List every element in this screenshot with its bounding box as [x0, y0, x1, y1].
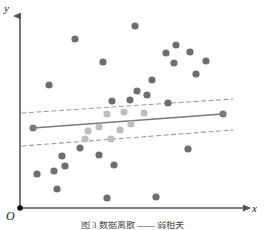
figure-caption: 图 3 数据离散 —— 弱相关: [0, 221, 265, 230]
regression-endpoint-left: [29, 124, 36, 131]
scatter-point: [33, 170, 40, 177]
scatter-point: [172, 41, 179, 48]
scatter-point: [120, 108, 127, 115]
y-axis-label: y: [4, 3, 9, 14]
scatter-points: [33, 22, 209, 201]
scatter-point: [192, 70, 199, 77]
scatter-point: [116, 126, 123, 133]
scatter-point: [148, 76, 155, 83]
scatter-point: [95, 151, 102, 158]
scatter-point: [45, 81, 52, 88]
confidence-band-lines: [22, 99, 233, 146]
scatter-point: [81, 135, 88, 142]
scatter-figure: y x O 图 3 数据离散 —— 弱相关: [0, 0, 265, 230]
scatter-point: [140, 109, 147, 116]
scatter-point: [162, 49, 169, 56]
scatter-point: [107, 135, 114, 142]
scatter-point: [103, 110, 110, 117]
regression-endpoint-right: [219, 110, 226, 117]
scatter-point: [126, 96, 133, 103]
scatter-point: [53, 185, 60, 192]
scatter-point: [71, 35, 78, 42]
scatter-point: [76, 144, 83, 151]
scatter-point: [186, 48, 193, 55]
scatter-point: [108, 97, 115, 104]
scatter-point: [103, 194, 110, 201]
scatter-point: [202, 57, 209, 64]
scatter-point: [84, 127, 91, 134]
axes: [17, 16, 250, 211]
scatter-point: [99, 58, 106, 65]
x-axis-label: x: [252, 203, 257, 214]
regression-line-group: [29, 110, 226, 131]
scatter-point: [127, 120, 134, 127]
scatter-point: [95, 123, 102, 130]
scatter-point: [133, 87, 140, 94]
scatter-point: [131, 22, 138, 29]
origin-dot: [17, 205, 23, 211]
lower-band-line: [22, 130, 233, 146]
scatter-point: [61, 162, 68, 169]
scatter-plot-canvas: [0, 0, 265, 230]
scatter-point: [58, 152, 65, 159]
scatter-point: [164, 99, 171, 106]
scatter-point: [152, 193, 159, 200]
scatter-point: [184, 145, 191, 152]
scatter-point: [143, 91, 150, 98]
scatter-point: [50, 167, 57, 174]
scatter-point: [170, 59, 177, 66]
scatter-point: [110, 161, 117, 168]
